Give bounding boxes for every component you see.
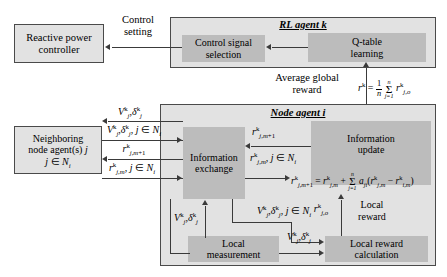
arrow-rl-to-controller-head	[105, 44, 110, 50]
average-global-reward-label: Average global reward	[258, 72, 356, 96]
line-feedback-bottom	[170, 253, 190, 254]
line-local-reward-up	[341, 200, 342, 236]
line-v-delta-up-vert	[205, 206, 206, 238]
arrow-r-jm-in-head	[177, 175, 182, 181]
line-r-jm1-out	[108, 159, 183, 160]
local-reward-line2: reward	[344, 211, 400, 223]
arrow-r-jm-mid-head	[285, 175, 290, 181]
information-exchange-line1: Information	[190, 152, 238, 163]
line-feedback-left-vert	[170, 199, 171, 253]
node-agent-title: Node agent i	[160, 107, 436, 118]
arrow-v-delta-in-head	[177, 137, 182, 143]
reactive-power-controller-line1: Reactive power	[26, 32, 92, 44]
average-global-reward-line1: Average global	[258, 72, 356, 84]
local-measurement-box: Local measurement	[188, 236, 279, 262]
neighboring-node-line3: j ∈ Ni	[45, 156, 70, 167]
information-update-line1: Information	[347, 133, 395, 144]
reactive-power-controller-box: Reactive power controller	[14, 24, 104, 63]
line-v-delta-neighbors-v1	[232, 199, 233, 222]
information-update-line2: update	[358, 144, 385, 155]
local-measurement-line2: measurement	[207, 249, 260, 260]
local-reward-line1: Local	[344, 199, 400, 211]
line-r-jm1-mid	[251, 146, 311, 147]
q-table-learning-line2: learning	[351, 48, 384, 59]
label-v-delta-up: Vkj,δkj	[161, 212, 211, 224]
local-reward-calculation-line1: Local reward	[350, 238, 403, 249]
neighboring-node-line1: Neighboring	[33, 133, 84, 144]
local-reward-label: Local reward	[344, 199, 400, 222]
information-exchange-box: Information exchange	[183, 127, 245, 199]
label-r-jm-in: rkj,m, j ∈ Ni	[92, 162, 172, 174]
line-measurement-to-reward	[279, 253, 321, 254]
label-v-delta-out: Vkj,δkj	[100, 106, 160, 118]
global-reward-formula: rk = 1n nΣj=1 rkj,o	[358, 79, 444, 99]
control-setting-label: Control setting	[107, 14, 169, 38]
arrow-rl-to-controller-line	[112, 47, 182, 48]
control-signal-selection-line2: selection	[206, 49, 242, 60]
arrow-v-delta-out-head	[102, 118, 107, 124]
information-exchange-line2: exchange	[195, 163, 233, 174]
local-measurement-line1: Local	[222, 238, 245, 249]
arrow-qtable-to-control-line	[272, 47, 308, 48]
diagram-canvas: Reactive power controller Control settin…	[0, 0, 447, 277]
label-v-delta-meas: Vkj,δkj	[274, 231, 324, 243]
arrow-global-reward-head	[363, 62, 369, 67]
label-v-delta-in: Vkj,δkj, j ∈ Ni	[92, 124, 176, 136]
arrow-local-reward-up-head	[338, 194, 344, 199]
q-table-learning-line1: Q-table	[352, 36, 382, 47]
neighboring-node-agent-box: Neighboring node agent(s) j j ∈ Ni	[14, 126, 102, 174]
arrow-measurement-to-reward-head	[319, 250, 324, 256]
control-signal-selection-box: Control signal selection	[182, 35, 265, 62]
label-r-jm1-out: rkj,m+1	[104, 143, 164, 155]
label-r-jo: rkj,o	[300, 203, 342, 215]
neighboring-node-line2: node agent(s) j	[28, 144, 87, 155]
arrow-r-jm1-out-head	[102, 156, 107, 162]
line-r-jm-in	[102, 178, 183, 179]
control-setting-line1: Control	[107, 14, 169, 26]
q-table-learning-box: Q-table learning	[308, 33, 426, 62]
control-setting-line2: setting	[107, 26, 169, 38]
local-reward-calculation-line2: calculation	[355, 249, 399, 260]
line-r-jm-mid	[245, 178, 287, 179]
line-v-delta-neighbors-h	[232, 222, 292, 223]
arrow-v-delta-up-head	[202, 200, 208, 205]
rl-agent-title: RL agent k	[170, 19, 436, 30]
label-r-jm1-mid: rkj,m+1	[252, 126, 310, 138]
local-reward-calculation-box: Local reward calculation	[325, 236, 428, 262]
line-v-delta-out	[108, 121, 183, 122]
line-v-delta-in	[102, 140, 183, 141]
arrow-r-jm1-mid-head	[245, 143, 250, 149]
control-signal-selection-line1: Control signal	[195, 37, 252, 48]
arrow-qtable-to-control-head	[266, 44, 271, 50]
reactive-power-controller-line2: controller	[39, 44, 80, 56]
average-global-reward-line2: reward	[258, 84, 356, 96]
label-r-jm-mid: rkj,m, j ∈ Ni	[250, 152, 326, 164]
consensus-formula: rkj,m+1 = rkj,m + nΣj=1 aji(rkj,m − rki,…	[291, 172, 443, 191]
